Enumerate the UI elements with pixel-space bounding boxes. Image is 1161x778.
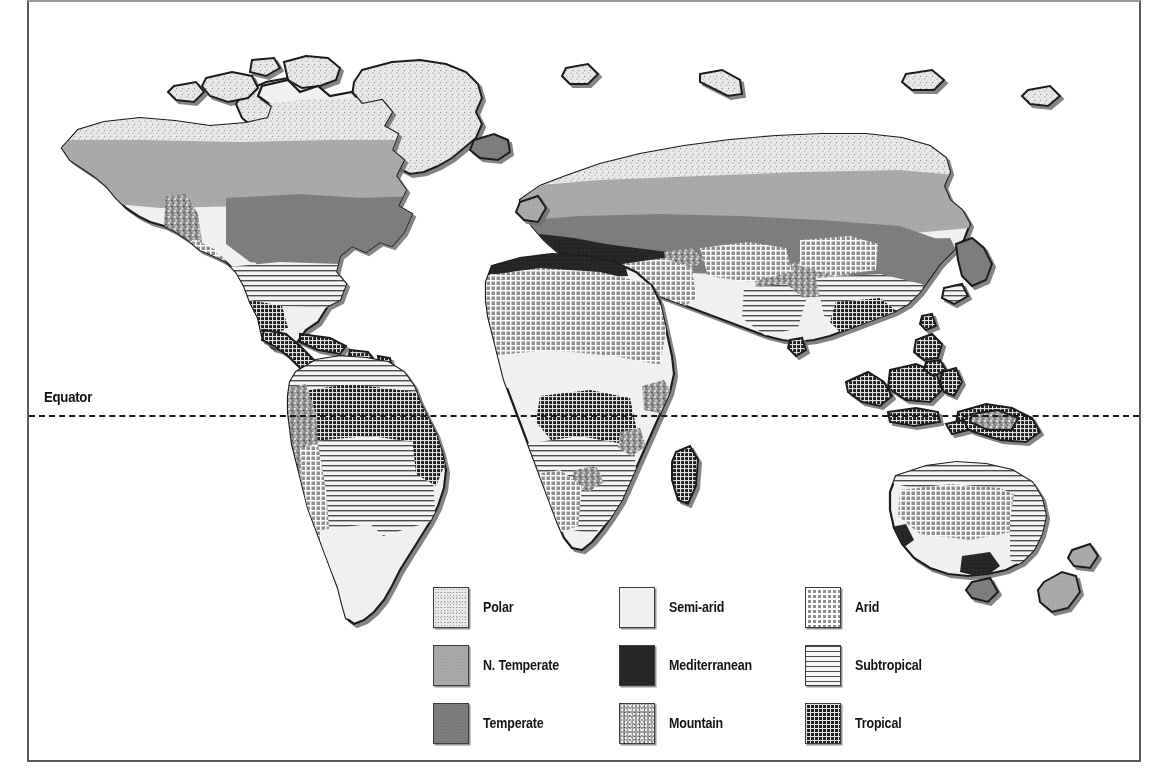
legend-swatch-arid — [805, 587, 841, 628]
southeast-asia-islands — [846, 314, 1040, 442]
south-america-zones — [284, 352, 450, 620]
legend-label-temperate: Temperate — [483, 715, 544, 731]
victoria-island — [202, 72, 258, 102]
madagascar-group — [672, 446, 698, 504]
legend-item-semi-arid: Semi-arid — [619, 587, 805, 628]
cuba — [300, 334, 346, 354]
equator-label: Equator — [44, 388, 92, 405]
new-zealand-north-island — [1068, 544, 1098, 568]
arctic-island-small-a — [168, 82, 204, 102]
legend-item-mountain: Mountain — [619, 703, 805, 744]
legend-swatch-polar — [433, 587, 469, 628]
legend-label-n-temperate: N. Temperate — [483, 657, 559, 673]
legend-label-subtropical: Subtropical — [855, 657, 922, 673]
legend-item-mediterranean: Mediterranean — [619, 645, 805, 686]
arctic-island-small-b — [250, 58, 280, 76]
legend-label-semi-arid: Semi-arid — [669, 599, 724, 615]
legend-label-mountain: Mountain — [669, 715, 723, 731]
legend-row: N. Temperate Mediterranean Subtropical — [433, 636, 993, 694]
legend-label-tropical: Tropical — [855, 715, 901, 731]
legend-swatch-temperate — [433, 703, 469, 744]
north-america-zones — [48, 96, 424, 340]
south-america — [284, 352, 450, 624]
legend-swatch-tropical — [805, 703, 841, 744]
legend-item-subtropical: Subtropical — [805, 645, 991, 686]
timor — [946, 420, 968, 434]
sa-zone-semiarid-patagonia — [320, 524, 392, 620]
novaya-zemlya — [700, 70, 742, 96]
australia-zone-arid-center — [898, 484, 1026, 540]
australia — [884, 456, 1050, 578]
na-zone-arid-southwest — [164, 240, 222, 310]
sri-lanka — [788, 338, 806, 356]
australia-zone-subtropical-east — [1010, 480, 1050, 570]
arctic-island-east — [1022, 86, 1060, 106]
taiwan — [920, 314, 936, 330]
africa — [480, 250, 674, 550]
legend-swatch-mediterranean — [619, 645, 655, 686]
new-zealand-south-island — [1038, 572, 1080, 612]
legend-label-mediterranean: Mediterranean — [669, 657, 752, 673]
legend-swatch-mountain — [619, 703, 655, 744]
legend-item-n-temperate: N. Temperate — [433, 645, 619, 686]
japan — [956, 238, 992, 286]
legend-item-arid: Arid — [805, 587, 991, 628]
na-zone-subtropical-south — [218, 262, 396, 308]
legend-row: Temperate Mountain Tropical — [433, 694, 993, 752]
svalbard — [562, 64, 598, 84]
north-america — [48, 80, 424, 352]
java — [888, 408, 940, 426]
map-legend: Polar Semi-arid Arid N. Temperate Medite… — [433, 578, 993, 752]
madagascar — [672, 446, 698, 504]
japan-south — [942, 284, 968, 304]
legend-swatch-semi-arid — [619, 587, 655, 628]
legend-row: Polar Semi-arid Arid — [433, 578, 993, 636]
legend-label-polar: Polar — [483, 599, 513, 615]
legend-item-polar: Polar — [433, 587, 619, 628]
legend-swatch-n-temperate — [433, 645, 469, 686]
legend-label-arid: Arid — [855, 599, 879, 615]
philippines — [914, 334, 942, 360]
equator-line — [29, 415, 1139, 417]
legend-swatch-subtropical — [805, 645, 841, 686]
legend-item-tropical: Tropical — [805, 703, 991, 744]
legend-item-temperate: Temperate — [433, 703, 619, 744]
sumatra — [846, 372, 892, 406]
arctic-island-siberia — [902, 70, 944, 90]
world-climate-map-figure: Equator Polar Semi-arid Arid N. Temperat… — [0, 0, 1161, 778]
